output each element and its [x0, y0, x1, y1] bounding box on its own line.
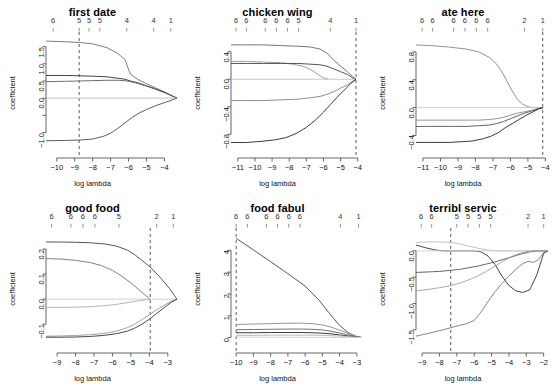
top-axis-label: 5: [297, 16, 301, 25]
x-tick-label: −11: [417, 163, 429, 172]
coefficient-path: [231, 79, 356, 142]
top-axis-label: 6: [69, 212, 73, 221]
x-tick-label: −8: [88, 163, 97, 172]
x-tick-label: −11: [232, 163, 244, 172]
y-tick-label: 1.5: [37, 47, 46, 57]
x-tick-label: −8: [471, 163, 480, 172]
top-axis-label: 6: [463, 16, 467, 25]
top-axis-label: 6: [81, 212, 85, 221]
top-axis-label: 6: [263, 16, 267, 25]
top-axis-label: 2: [526, 212, 530, 221]
plot-panel-food-fabul: food fabul66666641−10−9−8−7−6−5−4−343210…: [185, 196, 370, 391]
x-tick-label: −5: [127, 358, 136, 367]
figure-panel-grid: first date6555441−10−9−8−7−6−5−41.51.00.…: [0, 0, 556, 391]
x-tick-label: −3: [163, 358, 172, 367]
x-tick-label: −5: [142, 163, 151, 172]
y-tick-label: 0.0: [37, 299, 46, 309]
y-axis-label: coefficient: [378, 272, 387, 306]
coefficient-path: [231, 63, 356, 79]
top-axis-label: 6: [287, 212, 291, 221]
top-axis-label: 1: [354, 16, 358, 25]
x-tick-label: −7: [90, 358, 99, 367]
top-axis-label: 2: [155, 212, 159, 221]
top-axis-label: 6: [49, 212, 53, 221]
y-tick-label: −0.8: [222, 134, 231, 149]
x-tick-label: −5: [524, 163, 533, 172]
x-tick-label: −6: [301, 358, 310, 367]
x-tick-label: −4: [541, 163, 550, 172]
x-axis-label: log lambda: [0, 374, 185, 383]
coefficient-path: [46, 299, 150, 307]
x-tick-label: −5: [318, 358, 327, 367]
y-axis-label: coefficient: [378, 76, 387, 110]
top-axis-label: 2: [522, 16, 526, 25]
coefficient-path: [46, 259, 150, 300]
x-tick-label: −10: [434, 163, 447, 172]
y-tick-label: 4: [222, 250, 231, 254]
top-axis-label: 6: [420, 16, 424, 25]
coefficient-path: [416, 251, 548, 336]
top-axis-label: 4: [152, 16, 156, 25]
top-axis-label: 6: [245, 212, 249, 221]
y-tick-label: 0: [222, 338, 231, 342]
x-tick-label: −8: [285, 163, 294, 172]
x-tick-label: −4: [335, 358, 344, 367]
y-tick-label: 0.0: [407, 108, 416, 118]
y-tick-label: 0.0: [37, 98, 46, 108]
x-tick-label: −5: [487, 358, 496, 367]
plot-panel-good-food: good food6666521−9−8−7−6−5−4−30.20.10.0−…: [0, 196, 185, 391]
top-axis-label: 6: [451, 16, 455, 25]
top-axis-label: 5: [98, 16, 102, 25]
x-tick-label: −4: [160, 163, 169, 172]
top-axis-label: 6: [430, 212, 434, 221]
top-axis-label: 5: [489, 212, 493, 221]
top-axis-label: 5: [87, 16, 91, 25]
y-tick-label: 1.0: [37, 64, 46, 74]
x-tick-label: −8: [266, 358, 275, 367]
x-tick-label: −6: [470, 358, 479, 367]
top-axis-label: 6: [274, 16, 278, 25]
x-tick-label: −7: [106, 163, 115, 172]
coefficient-path: [416, 242, 548, 251]
y-tick-label: 0.0: [407, 251, 416, 261]
coefficient-path: [46, 98, 177, 141]
x-tick-label: −6: [124, 163, 133, 172]
x-axis-label: log lambda: [370, 179, 556, 188]
top-axis-label: 5: [477, 212, 481, 221]
top-axis-label: 1: [542, 212, 546, 221]
top-axis-label: 4: [125, 16, 129, 25]
y-axis-label: coefficient: [193, 272, 202, 306]
coefficient-path: [46, 242, 177, 299]
plot-panel-terribl-servic: terribl servic66555521−9−8−7−6−5−4−3−20.…: [370, 196, 556, 391]
top-axis-label: 6: [474, 16, 478, 25]
x-tick-label: −9: [454, 163, 463, 172]
x-tick-label: −4: [505, 358, 514, 367]
x-tick-label: −4: [145, 358, 154, 367]
y-tick-label: 3: [222, 272, 231, 276]
x-tick-label: −7: [489, 163, 498, 172]
x-tick-label: −10: [50, 163, 63, 172]
y-tick-label: −1.0: [37, 133, 46, 148]
top-axis-label: 6: [285, 16, 289, 25]
top-axis-label: 6: [419, 212, 423, 221]
y-tick-label: 0.1: [37, 274, 46, 284]
y-tick-label: 0.2: [37, 249, 46, 259]
x-axis-label: log lambda: [370, 374, 556, 383]
y-axis-label: coefficient: [8, 76, 17, 110]
x-tick-label: −6: [108, 358, 117, 367]
x-axis-label: log lambda: [185, 179, 370, 188]
x-tick-label: −7: [302, 163, 311, 172]
coefficient-path: [46, 75, 177, 98]
top-axis-label: 1: [169, 16, 173, 25]
y-tick-label: 2: [222, 294, 231, 298]
x-tick-label: −3: [353, 358, 362, 367]
y-axis-label: coefficient: [193, 76, 202, 110]
y-tick-label: −0.1: [37, 324, 46, 339]
x-tick-label: −8: [71, 358, 80, 367]
top-axis-label: 6: [431, 16, 435, 25]
top-axis-label: 6: [264, 212, 268, 221]
coefficient-path: [416, 45, 543, 108]
y-tick-label: 1: [222, 316, 231, 320]
y-axis-label: coefficient: [8, 272, 17, 306]
top-axis-label: 5: [77, 16, 81, 25]
